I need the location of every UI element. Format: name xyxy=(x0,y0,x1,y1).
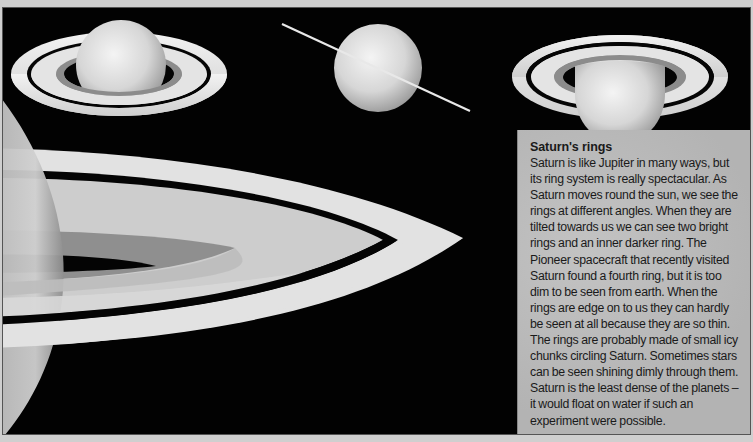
panel-title: Saturn's rings xyxy=(530,140,743,155)
illustration-frame: Saturn's rings Saturn is like Jupiter in… xyxy=(2,7,751,435)
saturn-tilted-below-icon xyxy=(512,35,728,144)
panel-body: Saturn is like Jupiter in many ways, but… xyxy=(530,155,743,429)
saturn-tilted-above-icon xyxy=(11,20,227,116)
text-panel: Saturn's rings Saturn is like Jupiter in… xyxy=(517,130,751,434)
book-page: Saturn's rings Saturn is like Jupiter in… xyxy=(0,0,753,442)
saturn-close-up-icon xyxy=(3,88,463,434)
saturn-edge-on-icon xyxy=(282,24,470,112)
